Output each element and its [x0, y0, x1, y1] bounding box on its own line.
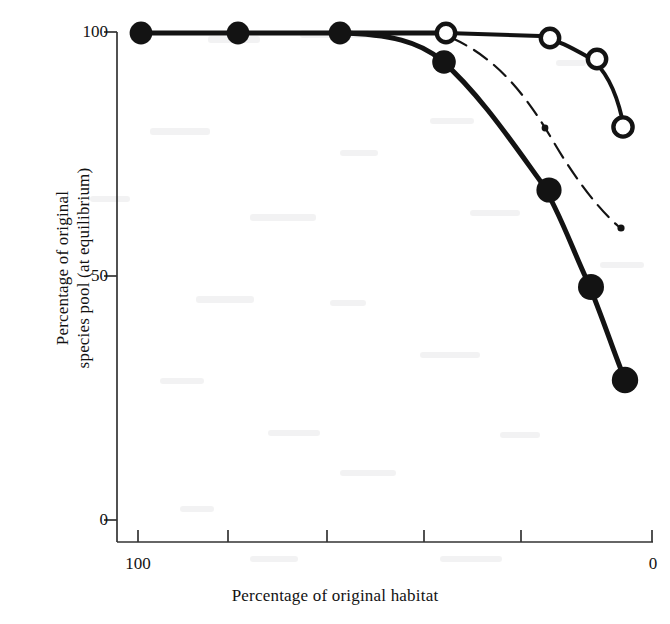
data-point-filled: [578, 274, 604, 300]
y-axis-title: Percentage of original species pool (at …: [52, 0, 94, 548]
figure-container: 100 50 0 100 0 Percentage of original ha…: [0, 0, 670, 624]
data-point-dashed: [617, 224, 624, 231]
x-tick-label-100: 100: [108, 554, 168, 574]
data-point-filled: [130, 22, 153, 45]
data-point-filled: [612, 367, 638, 393]
data-point-filled: [536, 177, 561, 202]
y-axis-title-line-2: species pool (at equilibrium): [73, 0, 94, 548]
data-point-open: [437, 24, 455, 42]
data-point-dashed: [542, 125, 549, 132]
plot-area: [0, 0, 670, 624]
x-tick-label-0: 0: [623, 554, 670, 574]
series-open-circles-line: [446, 33, 622, 118]
data-point-open: [588, 50, 606, 68]
data-point-open: [541, 29, 559, 47]
markers-open-circles: [437, 24, 633, 137]
y-axis: [104, 32, 117, 542]
x-axis: [117, 530, 653, 542]
data-point-filled: [432, 50, 456, 74]
y-axis-title-line-1: Percentage of original: [52, 0, 73, 548]
data-point-filled: [227, 22, 250, 45]
x-axis-title: Percentage of original habitat: [0, 586, 670, 606]
markers-filled-circles: [130, 22, 639, 394]
data-point-open: [613, 117, 632, 136]
data-point-filled: [329, 22, 352, 45]
